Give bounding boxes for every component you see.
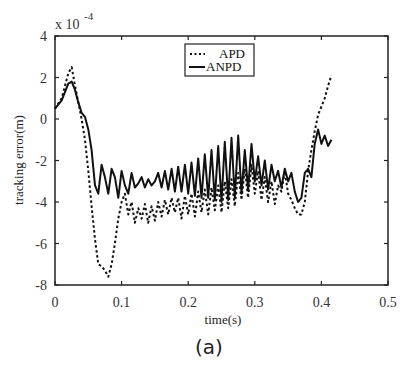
y-tick-label: -2 — [35, 154, 47, 169]
x-tick-label: 0.1 — [113, 295, 131, 310]
y-tick-label: 4 — [40, 29, 47, 44]
x-tick-label: 0 — [52, 295, 59, 310]
x-tick-label: 0.3 — [246, 295, 264, 310]
y-tick-label: -6 — [35, 237, 47, 252]
legend: APD ANPD — [185, 44, 254, 76]
legend-anpd-label: ANPD — [206, 59, 241, 74]
y-scale-prefix: x 10 — [55, 17, 80, 32]
y-tick-label: -4 — [35, 195, 47, 210]
y-scale-exponent: -4 — [84, 10, 94, 22]
y-axis-label: tracking error(m) — [11, 115, 26, 205]
x-tick-label: 0.2 — [179, 295, 197, 310]
y-scale-label: x 10 -4 — [55, 10, 94, 32]
y-tick-label: 2 — [40, 71, 47, 86]
tracking-error-chart: 00.10.20.30.40.5420-2-4-6-8 x 10 -4 trac… — [0, 0, 402, 335]
y-tick-label: -8 — [35, 278, 47, 293]
series-anpd — [55, 82, 331, 202]
x-axis-label: time(s) — [205, 312, 242, 327]
x-tick-label: 0.5 — [379, 295, 397, 310]
data-series — [55, 67, 331, 277]
x-tick-label: 0.4 — [313, 295, 331, 310]
figure-caption: (a) — [0, 335, 402, 359]
caption-text: (a) — [195, 335, 223, 359]
y-tick-label: 0 — [40, 112, 47, 127]
